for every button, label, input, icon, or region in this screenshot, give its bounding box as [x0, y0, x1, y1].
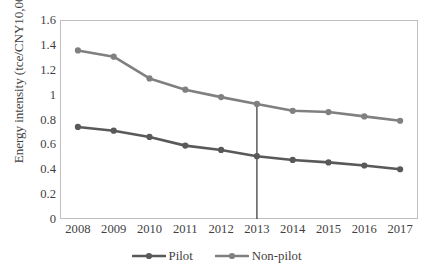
y-axis-tick-label: 1.6 [18, 14, 56, 27]
data-point-marker [361, 162, 367, 168]
y-axis-tick-label: 0.4 [18, 163, 56, 176]
series-line [78, 50, 400, 120]
x-axis-tick-labels: 2008200920102011201220132014201520162017 [60, 223, 418, 243]
data-point-marker [325, 109, 331, 115]
data-point-marker [182, 143, 188, 149]
series-pilot [75, 124, 403, 172]
data-point-marker [146, 75, 152, 81]
legend-swatch [215, 250, 249, 262]
data-point-marker [397, 118, 403, 124]
y-axis-tick-label: 1 [18, 89, 56, 102]
y-axis-tick-label: 1.4 [18, 39, 56, 52]
y-axis-tick-label: 0.8 [18, 114, 56, 127]
legend-label: Pilot [169, 250, 193, 263]
data-point-marker [111, 54, 117, 60]
data-point-marker [397, 166, 403, 172]
data-point-marker [290, 108, 296, 114]
energy-intensity-line-chart: Energy intensity (tce/CNY10,000) 00.20.4… [0, 0, 433, 279]
data-point-marker [218, 147, 224, 153]
data-point-marker [75, 124, 81, 130]
y-axis-tick-label: 1.2 [18, 64, 56, 77]
legend-entry: Pilot [132, 250, 193, 263]
data-point-marker [254, 101, 260, 107]
legend-label: Non-pilot [252, 250, 302, 263]
legend-entry: Non-pilot [215, 250, 302, 263]
legend-swatch [132, 250, 166, 262]
y-axis-tick-label: 0 [18, 213, 56, 226]
plot-series-layer [60, 20, 418, 219]
data-point-marker [182, 87, 188, 93]
data-point-marker [218, 94, 224, 100]
data-point-marker [254, 153, 260, 159]
data-point-marker [75, 47, 81, 53]
data-point-marker [111, 128, 117, 134]
data-point-marker [361, 113, 367, 119]
chart-legend: PilotNon-pilot [0, 250, 433, 263]
series-non-pilot [75, 47, 403, 123]
y-axis-tick-label: 0.6 [18, 138, 56, 151]
x-axis-tick-label: 2017 [377, 223, 423, 236]
y-axis-tick-labels: 00.20.40.60.811.21.41.6 [18, 0, 56, 279]
data-point-marker [290, 157, 296, 163]
y-axis-tick-label: 0.2 [18, 188, 56, 201]
data-point-marker [325, 159, 331, 165]
data-point-marker [146, 134, 152, 140]
series-line [78, 127, 400, 169]
